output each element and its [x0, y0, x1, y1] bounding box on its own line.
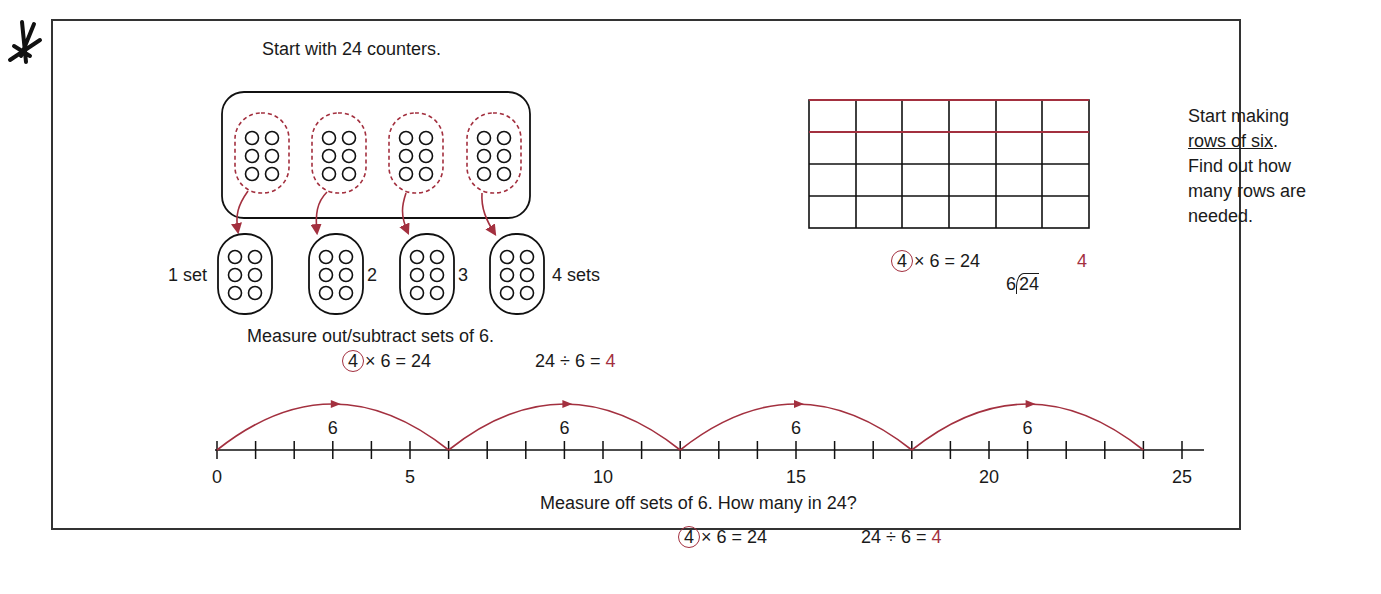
note-line-1: Start making — [1188, 104, 1306, 129]
note-period: . — [1273, 131, 1278, 151]
multiplication-rest: × 6 = 24 — [914, 251, 980, 271]
tick-label: 0 — [212, 467, 222, 487]
move-arrow-4 — [482, 193, 495, 234]
counters-multiplication: 4× 6 = 24 — [342, 350, 431, 372]
long-division-divisor: 6 — [1006, 274, 1016, 294]
counters-container — [222, 92, 530, 218]
circled-factor: 4 — [342, 350, 364, 372]
long-division: 624 — [1006, 273, 1039, 295]
note-line-2: rows of six. — [1188, 129, 1306, 154]
tick-label: 25 — [1172, 467, 1192, 487]
note-line-3: Find out how — [1188, 154, 1306, 179]
jump-arrowhead-icon — [794, 400, 804, 408]
number-line-division: 24 ÷ 6 = 4 — [861, 526, 941, 548]
multiplication-rest: × 6 = 24 — [701, 527, 767, 547]
circled-factor: 4 — [891, 250, 913, 272]
division-answer: 4 — [931, 527, 941, 547]
move-arrow-1 — [237, 191, 248, 232]
jump-label: 6 — [328, 418, 338, 438]
note-underlined: rows of six — [1188, 131, 1273, 151]
number-line-multiplication: 4× 6 = 24 — [678, 526, 767, 548]
multiplication-rest: × 6 = 24 — [365, 351, 431, 371]
long-division-dividend: 24 — [1016, 273, 1039, 294]
jump-label: 6 — [1023, 418, 1033, 438]
dashed-group-3 — [389, 113, 443, 193]
counters-caption: Measure out/subtract sets of 6. — [247, 325, 494, 347]
tick-label: 15 — [786, 467, 806, 487]
tick-label: 20 — [979, 467, 999, 487]
tick-label: 10 — [593, 467, 613, 487]
array-multiplication: 4× 6 = 24 — [891, 250, 980, 272]
counters-division: 24 ÷ 6 = 4 — [535, 350, 615, 372]
number-line-caption: Measure off sets of 6. How many in 24? — [540, 492, 857, 514]
jump-arrowhead-icon — [1026, 400, 1036, 408]
dashed-group-2 — [312, 113, 366, 193]
set-3 — [400, 234, 454, 314]
set-2 — [309, 234, 363, 314]
note-line-4: many rows are — [1188, 179, 1306, 204]
dashed-group-4 — [467, 113, 521, 193]
long-division-quotient: 4 — [1077, 250, 1087, 272]
set-label-2: 2 — [367, 264, 377, 286]
jump-label: 6 — [791, 418, 801, 438]
array-note: Start making rows of six. Find out how m… — [1188, 104, 1306, 229]
jump-arrowhead-icon — [562, 400, 572, 408]
division-answer: 4 — [605, 351, 615, 371]
set-label-4: 4 sets — [552, 264, 600, 286]
circled-factor: 4 — [678, 526, 700, 548]
division-lhs: 24 ÷ 6 = — [535, 351, 605, 371]
set-1 — [218, 234, 272, 314]
set-4 — [490, 234, 544, 314]
tick-label: 5 — [405, 467, 415, 487]
array-grid — [809, 100, 1089, 228]
number-line-tick-labels: 0510152025 — [212, 467, 1192, 487]
set-label-1: 1 set — [168, 264, 207, 286]
set-label-3: 3 — [458, 264, 468, 286]
division-lhs: 24 ÷ 6 = — [861, 527, 931, 547]
move-arrow-2 — [316, 192, 327, 233]
note-line-5: needed. — [1188, 204, 1306, 229]
jump-label: 6 — [559, 418, 569, 438]
jump-arrowhead-icon — [331, 400, 341, 408]
dashed-group-1 — [235, 113, 289, 193]
move-arrow-3 — [403, 193, 409, 233]
